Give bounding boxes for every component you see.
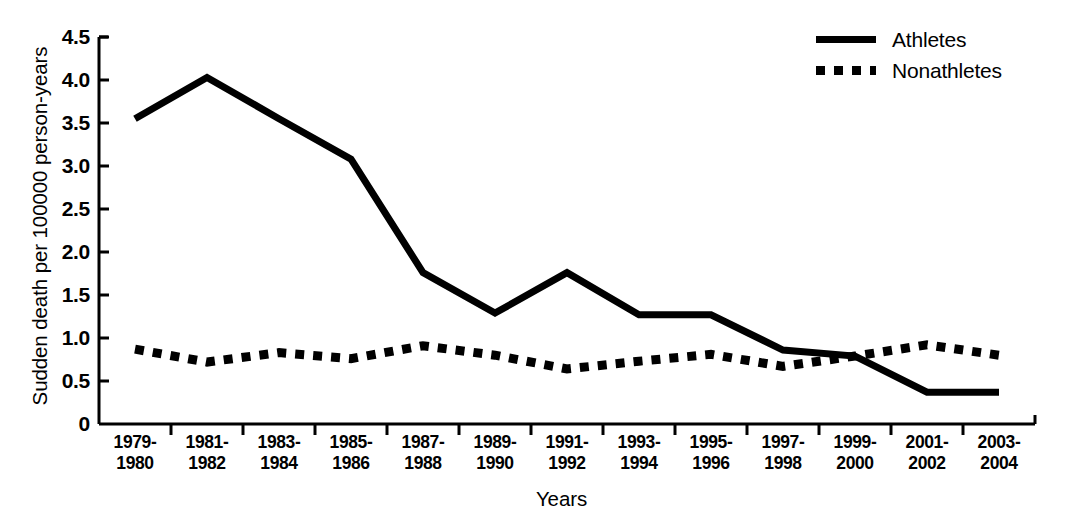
y-tick-label: 4.5 bbox=[32, 26, 90, 47]
x-axis-tick-labels: 1979-19801981-19821983-19841985-19861987… bbox=[99, 432, 1035, 490]
x-tick-label-line2: 1992 bbox=[531, 453, 603, 474]
legend-item-nonathletes[interactable]: Nonathletes bbox=[816, 55, 1066, 86]
x-tick-label: 1991-1992 bbox=[531, 432, 603, 490]
x-tick-label: 1983-1984 bbox=[243, 432, 315, 490]
x-tick-label-line1: 1979- bbox=[99, 432, 171, 453]
x-tick-label-line1: 1983- bbox=[243, 432, 315, 453]
x-tick-label: 1999-2000 bbox=[819, 432, 891, 490]
y-tick-label: 0 bbox=[32, 413, 90, 434]
x-tick-label: 1997-1998 bbox=[747, 432, 819, 490]
x-tick-label: 1995-1996 bbox=[675, 432, 747, 490]
x-tick-label-line1: 1985- bbox=[315, 432, 387, 453]
y-tick-label: 2.0 bbox=[32, 241, 90, 262]
x-tick-label-line1: 2001- bbox=[891, 432, 963, 453]
y-tick-label: 2.5 bbox=[32, 198, 90, 219]
x-tick-label-line2: 1988 bbox=[387, 453, 459, 474]
x-tick-label-line2: 1984 bbox=[243, 453, 315, 474]
x-axis-title-text: Years bbox=[536, 487, 587, 510]
x-tick-label-line2: 2000 bbox=[819, 453, 891, 474]
x-tick-label-line1: 1991- bbox=[531, 432, 603, 453]
x-tick-label: 1979-1980 bbox=[99, 432, 171, 490]
y-tick-label: 3.5 bbox=[32, 112, 90, 133]
x-tick-label-line1: 2003- bbox=[963, 432, 1035, 453]
chart-legend: AthletesNonathletes bbox=[816, 24, 1066, 86]
legend-item-athletes[interactable]: Athletes bbox=[816, 24, 1066, 55]
y-tick-label: 1.0 bbox=[32, 327, 90, 348]
x-tick-label-line2: 2004 bbox=[963, 453, 1035, 474]
x-tick-label-line2: 1986 bbox=[315, 453, 387, 474]
y-axis-tick-labels: 00.51.01.52.02.53.03.54.04.5 bbox=[32, 0, 90, 526]
series-line-athletes bbox=[135, 77, 999, 392]
x-tick-label-line1: 1997- bbox=[747, 432, 819, 453]
x-tick-label: 2003-2004 bbox=[963, 432, 1035, 490]
x-tick-label-line2: 1982 bbox=[171, 453, 243, 474]
x-tick-label-line2: 1994 bbox=[603, 453, 675, 474]
x-tick-label: 1993-1994 bbox=[603, 432, 675, 490]
x-tick-label: 1987-1988 bbox=[387, 432, 459, 490]
y-tick-label: 4.0 bbox=[32, 69, 90, 90]
x-axis-title: Years bbox=[0, 487, 1079, 511]
x-tick-label-line1: 1987- bbox=[387, 432, 459, 453]
legend-solid-line-icon bbox=[816, 36, 876, 43]
x-tick-label: 1981-1982 bbox=[171, 432, 243, 490]
x-tick-label-line1: 1993- bbox=[603, 432, 675, 453]
data-series-group bbox=[135, 77, 999, 392]
x-tick-label-line1: 1989- bbox=[459, 432, 531, 453]
x-tick-label: 1989-1990 bbox=[459, 432, 531, 490]
x-tick-label-line2: 1996 bbox=[675, 453, 747, 474]
axis-lines bbox=[99, 37, 1035, 435]
x-tick-label: 1985-1986 bbox=[315, 432, 387, 490]
legend-label: Athletes bbox=[892, 28, 966, 52]
x-tick-label-line1: 1995- bbox=[675, 432, 747, 453]
legend-dotted-line-icon bbox=[816, 66, 876, 75]
legend-label: Nonathletes bbox=[892, 59, 1002, 83]
series-line-nonathletes bbox=[135, 345, 999, 369]
x-tick-label-line2: 1980 bbox=[99, 453, 171, 474]
x-tick-label-line2: 1990 bbox=[459, 453, 531, 474]
x-tick-label-line2: 2002 bbox=[891, 453, 963, 474]
y-tick-label: 0.5 bbox=[32, 370, 90, 391]
x-tick-label-line1: 1981- bbox=[171, 432, 243, 453]
y-tick-label: 3.0 bbox=[32, 155, 90, 176]
y-tick-label: 1.5 bbox=[32, 284, 90, 305]
x-tick-label-line2: 1998 bbox=[747, 453, 819, 474]
chart-container: Sudden death per 100000 person-years 00.… bbox=[0, 0, 1079, 526]
x-tick-label-line1: 1999- bbox=[819, 432, 891, 453]
x-tick-label: 2001-2002 bbox=[891, 432, 963, 490]
